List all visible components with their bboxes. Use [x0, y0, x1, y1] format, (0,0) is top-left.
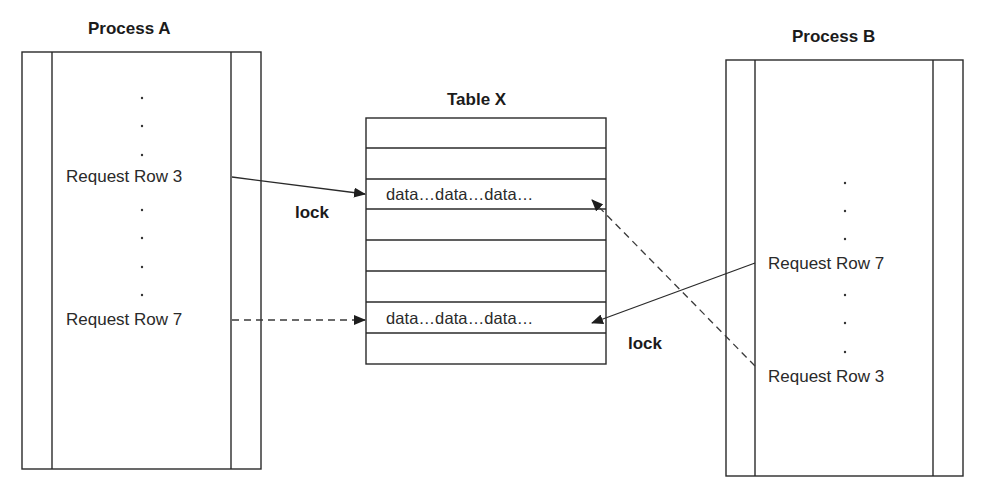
process-b-request-row-7: Request Row 7: [768, 255, 884, 272]
table-x-row-3-data: data…data…data…: [386, 186, 533, 203]
process-a-request-row-3: Request Row 3: [66, 168, 182, 185]
lock-label-process-a: lock: [295, 204, 329, 221]
arrow-b-row7-lock: [592, 263, 755, 323]
lock-label-process-b: lock: [628, 335, 662, 352]
table-x-grid: [366, 118, 606, 364]
deadlock-diagram: [0, 0, 983, 495]
process-b-request-row-3: Request Row 3: [768, 368, 884, 385]
process-a-title: Process A: [88, 20, 171, 37]
arrow-b-row3-wait: [592, 200, 755, 366]
process-a-box: [22, 52, 261, 469]
process-a-request-row-7: Request Row 7: [66, 311, 182, 328]
table-x-title: Table X: [447, 91, 506, 108]
process-a-ellipsis-dots: [141, 97, 143, 296]
table-x-row-7-data: data…data…data…: [386, 310, 533, 327]
process-b-title: Process B: [792, 28, 875, 45]
arrow-a-row3-lock: [232, 177, 365, 194]
